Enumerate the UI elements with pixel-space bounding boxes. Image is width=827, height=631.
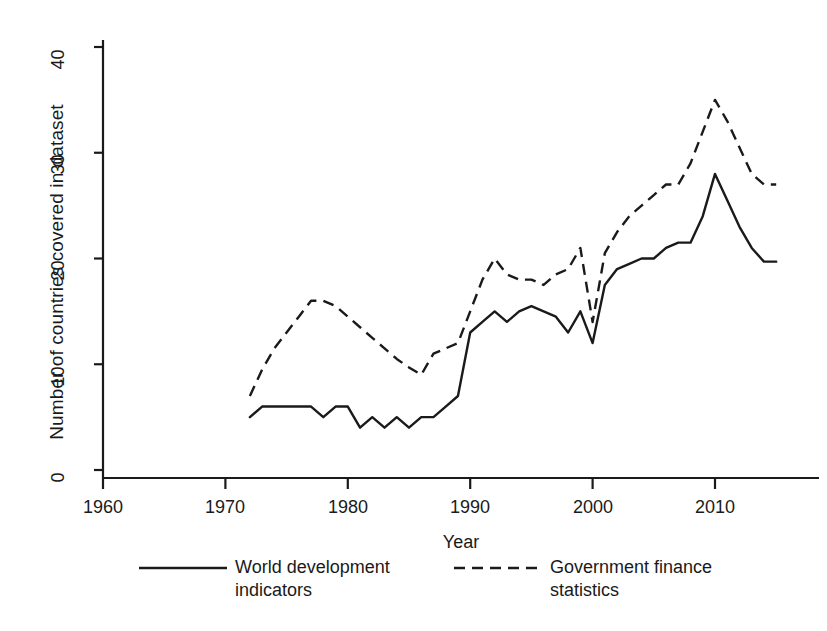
axis-lines	[103, 40, 819, 478]
legend-entry-government-finance-statistics: Government finance statistics	[452, 556, 712, 602]
y-axis-ticks	[94, 47, 103, 470]
chart-legend: World development indicators Government …	[0, 556, 827, 626]
series-line-world-development-indicators	[250, 174, 776, 428]
chart-figure: Number of countries covered in dataset 0…	[0, 0, 827, 631]
legend-swatch-dashed-line-icon	[452, 556, 544, 576]
legend-label-world-development-indicators: World development indicators	[229, 556, 390, 602]
legend-swatch-solid-line-icon	[137, 556, 229, 576]
plot-area	[0, 0, 827, 631]
legend-label-government-finance-statistics: Government finance statistics	[544, 556, 712, 602]
x-axis-ticks	[103, 478, 715, 489]
legend-entry-world-development-indicators: World development indicators	[137, 556, 390, 602]
series-line-government-finance-statistics	[250, 100, 776, 396]
